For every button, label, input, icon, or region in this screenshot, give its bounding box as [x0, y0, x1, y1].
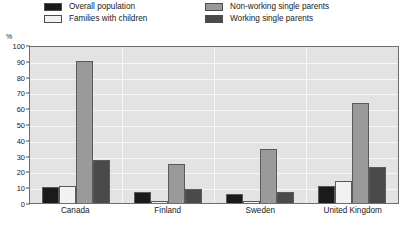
y-axis-tick-label: 60: [17, 105, 25, 114]
bar[interactable]: [151, 201, 168, 203]
legend-swatch-icon: [205, 15, 223, 23]
legend-swatch-icon: [44, 15, 62, 23]
legend-item[interactable]: Overall population: [44, 2, 135, 11]
bar-group: [30, 47, 122, 203]
bar[interactable]: [243, 201, 260, 203]
bar[interactable]: [134, 192, 151, 203]
y-axis: 1009080706050403020100: [0, 40, 29, 210]
bar[interactable]: [260, 149, 277, 203]
x-axis-labels: CanadaFinlandSwedenUnited Kingdom: [29, 206, 399, 215]
legend-item-label: Families with children: [69, 14, 147, 23]
bar[interactable]: [226, 194, 243, 203]
x-axis-label: Canada: [29, 206, 122, 215]
bar[interactable]: [277, 192, 294, 203]
legend-item-label: Working single parents: [230, 14, 313, 23]
x-axis-label: Finland: [122, 206, 215, 215]
bar[interactable]: [42, 187, 59, 203]
bar[interactable]: [369, 167, 386, 203]
y-axis-tick-label: 80: [17, 73, 25, 82]
bar[interactable]: [352, 103, 369, 203]
x-axis-label: Sweden: [214, 206, 307, 215]
chart-screenshot: Overall populationFamilies with children…: [0, 0, 405, 228]
y-axis-tick-label: 70: [17, 89, 25, 98]
bar[interactable]: [76, 61, 93, 203]
y-axis-tick-label: 40: [17, 136, 25, 145]
y-axis-tick-label: 20: [17, 168, 25, 177]
bar[interactable]: [335, 181, 352, 203]
x-axis-label: United Kingdom: [307, 206, 400, 215]
bar[interactable]: [93, 160, 110, 203]
y-axis-tick-label: 10: [17, 184, 25, 193]
y-axis-tick-label: 30: [17, 152, 25, 161]
y-axis-tick-label: 0: [21, 200, 25, 209]
legend-item-label: Overall population: [69, 2, 135, 11]
bar[interactable]: [59, 186, 76, 203]
bar-group: [214, 47, 306, 203]
bar[interactable]: [185, 189, 202, 203]
plot-area: [29, 46, 399, 204]
legend-swatch-icon: [205, 3, 223, 11]
y-axis-unit-label: %: [6, 33, 12, 40]
legend-item[interactable]: Families with children: [44, 14, 147, 23]
bar-groups: [30, 47, 398, 203]
bar-group: [306, 47, 398, 203]
bar[interactable]: [168, 164, 185, 204]
chart-legend: Overall populationFamilies with children…: [0, 0, 405, 30]
legend-item[interactable]: Non-working single parents: [205, 2, 329, 11]
y-axis-tick-label: 50: [17, 121, 25, 130]
legend-item-label: Non-working single parents: [230, 2, 329, 11]
legend-item[interactable]: Working single parents: [205, 14, 313, 23]
bar-group: [122, 47, 214, 203]
legend-swatch-icon: [44, 3, 62, 11]
y-axis-tick-label: 100: [12, 42, 25, 51]
y-axis-tick-label: 90: [17, 57, 25, 66]
bar[interactable]: [318, 186, 335, 203]
plot-background: [29, 46, 399, 204]
